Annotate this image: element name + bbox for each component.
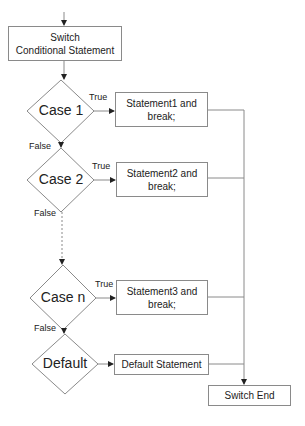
case-1-true-label: True xyxy=(89,92,107,102)
statement-2-line1: Statement2 and xyxy=(127,167,198,180)
case-n-label: Case n xyxy=(37,289,89,305)
statement-2-line2: break; xyxy=(148,180,176,193)
statement-3-box: Statement3 and break; xyxy=(116,280,208,315)
statement-2-box: Statement2 and break; xyxy=(116,162,208,197)
default-statement-box: Default Statement xyxy=(114,354,209,375)
case-2-false-label: False xyxy=(34,208,56,218)
switch-line1: Switch xyxy=(50,31,79,44)
statement-1-line2: break; xyxy=(148,110,176,123)
switch-end-box: Switch End xyxy=(208,385,291,406)
switch-line2: Conditional Statement xyxy=(16,44,114,57)
case-1-label: Case 1 xyxy=(35,102,87,118)
case-2-label: Case 2 xyxy=(35,171,87,187)
switch-end-label: Switch End xyxy=(224,389,274,402)
statement-3-line1: Statement3 and xyxy=(127,285,198,298)
default-label: Default xyxy=(37,355,93,371)
switch-conditional-box: Switch Conditional Statement xyxy=(8,26,122,61)
default-statement-label: Default Statement xyxy=(121,358,201,371)
case-1-false-label: False xyxy=(29,141,51,151)
case-n-true-label: True xyxy=(95,279,113,289)
statement-1-line1: Statement1 and xyxy=(126,97,197,110)
case-n-false-label: False xyxy=(34,323,56,333)
statement-1-box: Statement1 and break; xyxy=(115,92,208,127)
statement-3-line2: break; xyxy=(148,298,176,311)
case-2-true-label: True xyxy=(92,161,110,171)
